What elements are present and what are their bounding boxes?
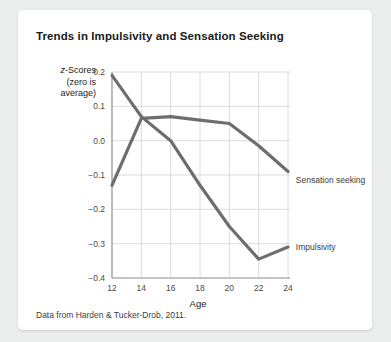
x-tick-label: 14	[137, 283, 147, 293]
series-label-sensation-seeking: Sensation seeking	[296, 175, 366, 185]
y-tick-label: −0.2	[88, 204, 105, 214]
x-tick-label: 20	[225, 283, 235, 293]
x-tick-label: 12	[107, 283, 117, 293]
x-tick-label: 22	[254, 283, 264, 293]
y-tick-label: −0.3	[88, 239, 105, 249]
series-label-impulsivity: Impulsivity	[296, 242, 336, 252]
line-chart: 0.20.10.0−0.1−0.2−0.3−0.412141618202224I…	[18, 10, 372, 330]
y-tick-label: 0.1	[93, 101, 105, 111]
y-tick-label: −0.4	[88, 273, 105, 283]
plot-area: 0.20.10.0−0.1−0.2−0.3−0.412141618202224I…	[18, 10, 372, 330]
x-tick-label: 24	[283, 283, 293, 293]
y-tick-label: 0.0	[93, 136, 105, 146]
chart-card: Trends in Impulsivity and Sensation Seek…	[18, 10, 372, 330]
y-tick-label: 0.2	[93, 67, 105, 77]
x-axis-title: Age	[190, 298, 207, 309]
x-tick-label: 18	[195, 283, 205, 293]
x-tick-label: 16	[166, 283, 176, 293]
y-tick-label: −0.1	[88, 170, 105, 180]
source-note: Data from Harden & Tucker-Drob, 2011.	[36, 310, 186, 320]
